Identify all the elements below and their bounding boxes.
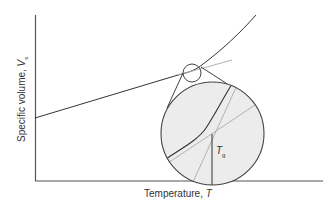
magnified-view bbox=[161, 82, 264, 186]
diagram-canvas: Tg Temperature, T Specific volume, Vs bbox=[0, 0, 332, 210]
x-axis-label: Temperature, T bbox=[144, 188, 213, 199]
y-axis-label: Specific volume, Vs bbox=[16, 57, 29, 142]
